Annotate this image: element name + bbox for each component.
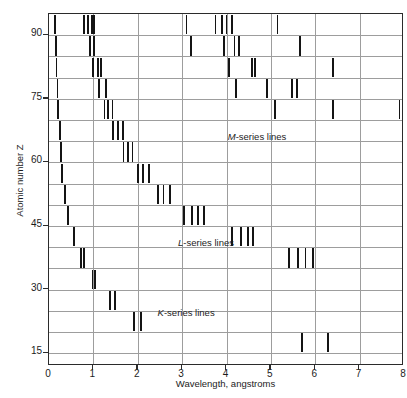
spectral-line-mark xyxy=(288,248,290,267)
spectral-line-mark xyxy=(157,185,159,204)
spectral-line-mark xyxy=(64,185,66,204)
spectral-line-mark xyxy=(89,36,91,55)
spectral-line-mark xyxy=(221,15,223,34)
spectral-line-mark xyxy=(93,15,95,34)
spectral-line-mark xyxy=(54,15,56,34)
spectral-line-mark xyxy=(56,58,58,77)
spectral-line-mark xyxy=(112,121,114,140)
x-tick-mark xyxy=(181,365,182,370)
x-tick-mark xyxy=(314,365,315,370)
spectral-line-mark xyxy=(291,79,293,98)
spectral-line-mark xyxy=(60,142,62,161)
spectral-line-mark xyxy=(299,36,301,55)
spectral-line-mark xyxy=(93,36,95,55)
spectral-line-mark xyxy=(133,312,135,331)
y-tick-label: 60 xyxy=(14,154,42,165)
y-tick-mark xyxy=(43,34,48,35)
series-label-text: -series lines xyxy=(183,237,234,248)
gridline-horizontal xyxy=(49,332,402,333)
spectral-line-mark xyxy=(59,121,61,140)
spectral-line-mark xyxy=(109,291,111,310)
spectral-line-mark xyxy=(332,58,334,77)
spectral-line-mark xyxy=(67,206,69,225)
spectral-line-mark xyxy=(114,291,116,310)
spectral-line-mark xyxy=(87,15,89,34)
y-tick-label: 75 xyxy=(14,91,42,102)
spectral-line-mark xyxy=(57,100,59,119)
spectral-line-mark xyxy=(92,270,94,289)
spectral-line-mark xyxy=(140,312,142,331)
spectral-line-mark xyxy=(332,100,334,119)
spectral-line-mark xyxy=(112,100,114,119)
m-series-label: M-series lines xyxy=(228,131,287,142)
spectral-line-mark xyxy=(83,15,85,34)
spectral-line-mark xyxy=(277,15,279,34)
spectral-line-mark xyxy=(132,142,134,161)
spectral-line-mark xyxy=(226,15,228,34)
spectral-line-mark xyxy=(100,58,102,77)
gridline-horizontal xyxy=(49,162,402,163)
x-tick-mark xyxy=(136,365,137,370)
gridline-horizontal xyxy=(49,141,402,142)
spectral-line-mark xyxy=(127,142,129,161)
spectral-line-mark xyxy=(234,36,236,55)
spectral-line-mark xyxy=(80,248,82,267)
spectral-line-mark xyxy=(296,79,298,98)
spectral-line-mark xyxy=(252,227,254,246)
gridline-horizontal xyxy=(49,268,402,269)
spectral-line-mark xyxy=(92,58,94,77)
gridline-horizontal xyxy=(49,184,402,185)
spectral-line-mark xyxy=(55,36,57,55)
y-tick-mark xyxy=(43,97,48,98)
figure-xray-spectral-lines: illi e of Atomic number Z Wavelength, an… xyxy=(0,0,407,398)
spectral-line-mark xyxy=(301,333,303,352)
spectral-line-mark xyxy=(191,206,193,225)
gridline-horizontal xyxy=(49,78,402,79)
spectral-line-mark xyxy=(238,36,240,55)
k-series-label: K-series lines xyxy=(158,307,215,318)
spectral-line-mark xyxy=(203,206,205,225)
spectral-line-mark xyxy=(190,36,192,55)
caption-fragment-top: illi xyxy=(0,34,6,41)
l-series-label: L-series lines xyxy=(178,237,234,248)
gridline-horizontal xyxy=(49,311,402,312)
gridline-horizontal xyxy=(49,56,402,57)
y-tick-mark xyxy=(43,161,48,162)
spectral-line-mark xyxy=(117,121,119,140)
gridline-horizontal xyxy=(49,35,402,36)
gridline-horizontal xyxy=(49,120,402,121)
spectral-line-mark xyxy=(223,36,225,55)
y-tick-label: 45 xyxy=(14,218,42,229)
spectral-line-mark xyxy=(57,79,59,98)
x-tick-label: 8 xyxy=(388,368,407,379)
spectral-line-mark xyxy=(215,15,217,34)
spectral-line-mark xyxy=(247,227,249,246)
spectral-line-mark xyxy=(186,15,188,34)
spectral-line-mark xyxy=(142,164,144,183)
spectral-line-mark xyxy=(266,79,268,98)
y-tick-label: 15 xyxy=(14,345,42,356)
x-tick-mark xyxy=(225,365,226,370)
spectral-line-mark xyxy=(251,58,253,77)
spectral-line-mark xyxy=(231,15,233,34)
plot-inner xyxy=(49,14,402,364)
spectral-line-mark xyxy=(235,79,237,98)
spectral-line-mark xyxy=(240,227,242,246)
spectral-line-mark xyxy=(97,58,99,77)
spectral-line-mark xyxy=(274,100,276,119)
x-tick-mark xyxy=(269,365,270,370)
spectral-line-mark xyxy=(305,248,307,267)
spectral-line-mark xyxy=(83,248,85,267)
y-tick-label: 90 xyxy=(14,27,42,38)
gridline-horizontal xyxy=(49,226,402,227)
spectral-line-mark xyxy=(183,206,185,225)
y-tick-mark xyxy=(43,352,48,353)
gridline-horizontal xyxy=(49,353,402,354)
spectral-line-mark xyxy=(169,185,171,204)
series-label-text: -series lines xyxy=(164,307,215,318)
spectral-line-mark xyxy=(228,58,230,77)
spectral-line-mark xyxy=(254,58,256,77)
spectral-line-mark xyxy=(94,270,96,289)
y-tick-mark xyxy=(43,288,48,289)
y-tick-mark xyxy=(43,225,48,226)
